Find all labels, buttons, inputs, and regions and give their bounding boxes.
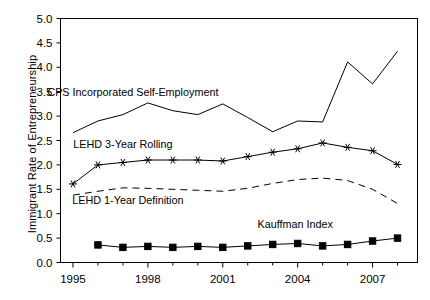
y-axis-tick-label: 2.0 — [37, 159, 53, 171]
y-axis-tick-label: 1.5 — [37, 183, 53, 195]
series-marker-square — [145, 243, 151, 249]
series-annotation-label: LEHD 3-Year Rolling — [73, 138, 172, 150]
line-chart-plot: 0.00.51.01.52.02.53.03.54.04.55.01995199… — [0, 0, 430, 300]
y-axis-tick-label: 4.5 — [37, 37, 53, 49]
series-annotation-label: Kauffman Index — [257, 218, 333, 230]
series-marker-square — [270, 241, 276, 247]
series-marker-square — [394, 235, 400, 241]
y-axis-tick-label: 1.0 — [37, 208, 53, 220]
x-axis-tick-label: 2007 — [360, 273, 386, 285]
series-marker-square — [294, 240, 300, 246]
x-axis-tick-label: 2001 — [210, 273, 236, 285]
x-axis-tick-label: 1998 — [135, 273, 161, 285]
y-axis-tick-label: 0.5 — [37, 232, 53, 244]
series-marker-square — [95, 242, 101, 248]
series-annotation-label: CPS Incorporated Self-Employment — [47, 86, 218, 98]
series-marker-square — [369, 238, 375, 244]
series-marker-square — [245, 243, 251, 249]
chart-container: Immigrant Rate of Entrepreneurship 0.00.… — [0, 0, 430, 300]
series-marker-square — [344, 241, 350, 247]
y-axis-tick-label: 5.0 — [37, 13, 53, 25]
series-marker-square — [170, 244, 176, 250]
y-axis-tick-label: 2.5 — [37, 135, 53, 147]
y-axis-tick-label: 4.0 — [37, 61, 53, 73]
series-marker-square — [120, 244, 126, 250]
series-annotation-label: LEHD 1-Year Definition — [72, 194, 183, 206]
y-axis-tick-label: 0.0 — [37, 257, 53, 269]
series-marker-square — [220, 244, 226, 250]
series-marker-square — [195, 243, 201, 249]
y-axis-tick-label: 3.0 — [37, 110, 53, 122]
series-marker-square — [319, 243, 325, 249]
x-axis-tick-label: 1995 — [60, 273, 86, 285]
x-axis-tick-label: 2004 — [285, 273, 311, 285]
